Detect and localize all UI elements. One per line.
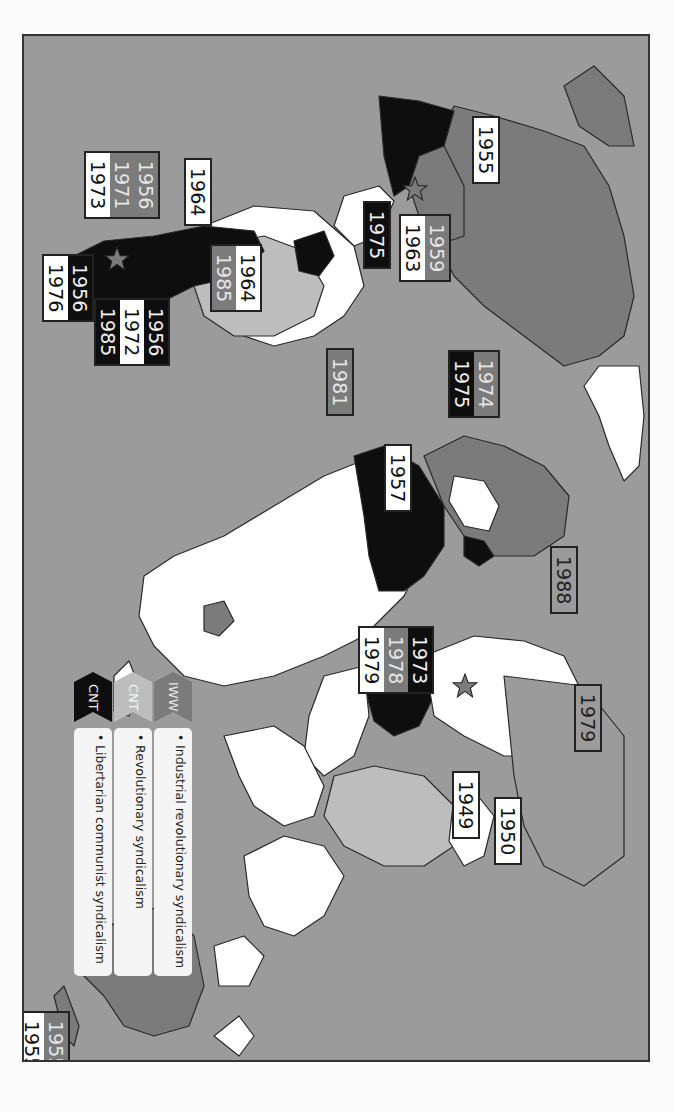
year-label-eastern-europe: 1988 [550, 546, 578, 614]
year-label-middle-east: 197319781979 [358, 626, 434, 694]
world-map: 1955 19591963 1975 1964 19641985 1956197… [22, 34, 650, 1062]
legend-description-cnt-revolutionary: • Revolutionary syndicalism [114, 728, 152, 976]
legend-tag-iww: IWW [154, 672, 192, 722]
legend-tag-cnt-revolutionary: CNT [114, 672, 152, 722]
land-alaska [564, 66, 634, 146]
map-caption [2, 380, 16, 800]
year-cell: 1975 [365, 203, 389, 267]
year-cell: 1956 [144, 300, 168, 364]
star-marker-chile-icon [104, 246, 130, 272]
year-label-iberia: 19741975 [448, 350, 500, 418]
year-label-north-america: 1955 [472, 116, 500, 184]
legend-tag-cnt-libertarian: CNT [74, 672, 112, 722]
year-cell: 1978 [384, 628, 408, 692]
map-legend: IWW • Industrial revolutionary syndicali… [58, 672, 198, 922]
year-cell: 1956 [68, 256, 92, 320]
year-label-central-america: 1975 [363, 201, 391, 269]
land-europe-iww [424, 436, 569, 556]
year-cell: 1981 [328, 350, 352, 414]
year-cell: 1964 [186, 160, 210, 224]
legend-description-cnt-libertarian: • Libertarian communist syndicalism [74, 728, 112, 976]
land-greenland [584, 366, 644, 481]
year-cell: 1985 [212, 246, 236, 310]
land-se-asia-white [244, 836, 344, 936]
year-cell: 1955 [22, 1013, 44, 1062]
year-cell: 1974 [474, 352, 498, 416]
land-china-light [324, 766, 454, 866]
star-marker-mexico-icon [402, 176, 428, 202]
year-label-mexico: 19591963 [399, 214, 451, 282]
legend-description-iww: • Industrial revolutionary syndicalism [154, 728, 192, 976]
year-label-mongolia: 1950 [494, 797, 522, 865]
year-cell: 1950 [496, 799, 520, 863]
land-indonesia-white [214, 936, 264, 986]
year-label-uruguay: 195619721985 [94, 298, 170, 366]
year-cell: 1975 [450, 352, 474, 416]
year-label-andes: 1964 [184, 158, 212, 226]
year-cell: 1973 [86, 153, 110, 217]
year-cell: 1956 [134, 153, 158, 217]
year-cell: 1976 [44, 256, 68, 320]
year-label-west-africa: 1981 [326, 348, 354, 416]
year-cell: 1949 [454, 773, 478, 837]
year-label-argentina: 19561976 [42, 254, 94, 322]
land-siberia-gray [504, 676, 624, 886]
land-new-guinea-white [214, 1016, 254, 1056]
year-label-new-zealand: 19551955 [22, 1011, 70, 1062]
year-cell: 1963 [401, 216, 425, 280]
star-marker-middle-east-icon [452, 673, 478, 699]
year-label-north-africa: 1957 [384, 444, 412, 512]
year-cell: 1972 [120, 300, 144, 364]
year-label-chile: 195619711973 [84, 151, 160, 219]
year-cell: 1957 [386, 446, 410, 510]
year-cell: 1988 [552, 548, 576, 612]
year-cell: 1985 [96, 300, 120, 364]
year-label-russia: 1979 [574, 684, 602, 752]
year-label-china: 1949 [452, 771, 480, 839]
year-cell: 1973 [408, 628, 432, 692]
year-cell: 1979 [360, 628, 384, 692]
year-cell: 1955 [474, 118, 498, 182]
year-cell: 1955 [44, 1013, 68, 1062]
year-cell: 1971 [110, 153, 134, 217]
year-label-brazil: 19641985 [210, 244, 262, 312]
year-cell: 1979 [576, 686, 600, 750]
year-cell: 1959 [425, 216, 449, 280]
year-cell: 1964 [236, 246, 260, 310]
